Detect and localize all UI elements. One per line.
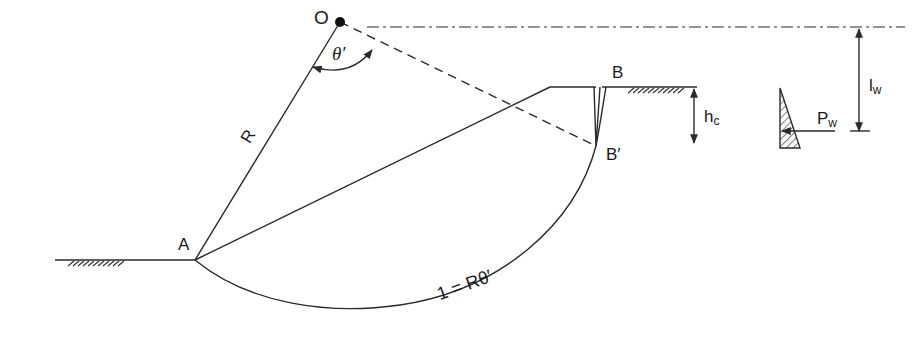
label-center-o: O [314, 8, 329, 27]
label-lw-sub: w [873, 83, 882, 97]
ground-hatch-right [628, 88, 684, 93]
center-point [335, 17, 345, 27]
water-pressure-triangle [780, 88, 800, 148]
label-pw-sub: w [828, 116, 837, 130]
label-point-b: B [612, 64, 623, 81]
label-pw: Pw [817, 110, 837, 129]
label-lw: lw [869, 77, 881, 96]
label-pw-main: P [817, 109, 828, 128]
label-point-a: A [178, 236, 189, 253]
ground-hatch-left [68, 261, 124, 266]
label-angle-theta: θ′ [332, 44, 346, 63]
label-point-b-prime: B′ [606, 146, 621, 163]
label-hc-sub: c [713, 114, 719, 128]
label-hc: hc [704, 108, 719, 127]
